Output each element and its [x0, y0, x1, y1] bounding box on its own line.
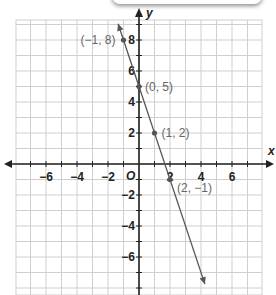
line-series — [117, 24, 205, 284]
x-tick-label: 6 — [229, 170, 236, 184]
x-axis-label: x — [267, 144, 276, 158]
y-tick-label: −6 — [121, 250, 135, 264]
y-tick-label: 4 — [128, 95, 135, 109]
x-tick-label: −6 — [39, 170, 53, 184]
coordinate-plane: xyO −6−4−22468642−2−4−6 (−1, 8)(0, 5)(1,… — [0, 0, 276, 295]
point-label: (−1, 8) — [80, 33, 115, 47]
function-line — [118, 24, 205, 284]
point-label: (1, 2) — [162, 126, 190, 140]
point-label: (0, 5) — [145, 80, 173, 94]
data-point — [152, 130, 157, 135]
x-axis-left-arrow-icon — [4, 160, 12, 168]
point-label: (2, −1) — [177, 181, 212, 195]
axes: xyO — [4, 6, 276, 295]
x-tick-label: −4 — [70, 170, 84, 184]
y-tick-label: −4 — [121, 219, 135, 233]
y-tick-label: 2 — [128, 126, 135, 140]
x-tick-label: −2 — [101, 170, 115, 184]
origin-label: O — [126, 169, 136, 183]
y-tick-label: −2 — [121, 188, 135, 202]
data-point — [121, 37, 126, 42]
x-axis-right-arrow-icon — [266, 160, 274, 168]
data-point — [167, 177, 172, 182]
y-axis-label: y — [145, 6, 154, 20]
y-tick-label: 8 — [128, 33, 135, 47]
y-axis-up-arrow-icon — [135, 8, 143, 17]
data-point — [136, 84, 141, 89]
